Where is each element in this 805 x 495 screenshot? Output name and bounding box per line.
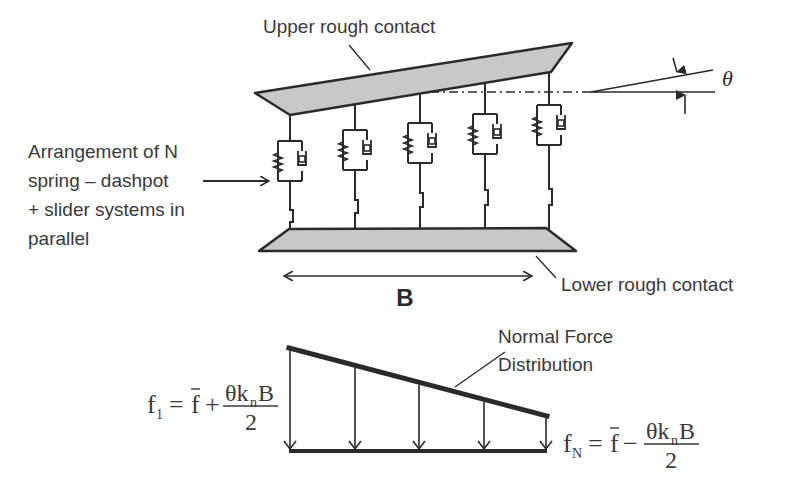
svg-text:θk: θk	[225, 380, 249, 406]
lower-contact-leader	[536, 256, 556, 278]
spring-dashpot-slider-4	[469, 84, 501, 229]
equation-f1: f 1 = f + θk n B 2	[147, 380, 278, 435]
svg-text:+: +	[205, 390, 220, 419]
upper-contact-label: Upper rough contact	[263, 16, 436, 37]
contact-model-diagram: Upper rough contact θ	[0, 0, 805, 495]
svg-text:−: −	[623, 429, 638, 458]
svg-text:f: f	[563, 429, 572, 458]
arrangement-line-1: Arrangement of N	[28, 141, 178, 162]
lower-contact-label: Lower rough contact	[561, 274, 734, 295]
svg-text:n: n	[250, 395, 257, 410]
svg-text:1: 1	[156, 407, 163, 422]
width-label: B	[396, 284, 413, 311]
svg-text:=: =	[588, 429, 603, 458]
svg-text:2: 2	[245, 409, 257, 435]
svg-text:N: N	[572, 446, 582, 461]
spring-dashpot-slider-5	[533, 72, 565, 229]
slider-icon	[420, 163, 423, 229]
svg-text:=: =	[169, 390, 184, 419]
angle-arrow-down-icon	[673, 58, 677, 72]
arrangement-line-2: spring – dashpot	[28, 170, 169, 191]
svg-text:2: 2	[665, 447, 677, 473]
svg-text:f: f	[191, 390, 200, 419]
angle-indicator	[591, 58, 715, 114]
slider-icon	[549, 145, 552, 229]
arrangement-label: Arrangement of N spring – dashpot + slid…	[28, 141, 185, 249]
upper-rough-contact	[255, 43, 572, 115]
spring-dashpot-slider-2	[339, 105, 371, 229]
lower-rough-contact	[259, 228, 576, 251]
equation-fN: f N = f − θk n B 2	[563, 418, 699, 473]
slider-icon	[485, 154, 488, 229]
arrangement-line-4: parallel	[28, 228, 89, 249]
theta-label: θ	[722, 66, 733, 91]
svg-text:n: n	[671, 433, 678, 448]
svg-text:θk: θk	[646, 418, 670, 444]
slider-icon	[355, 170, 358, 229]
spring-dashpot-slider-1	[274, 115, 306, 229]
svg-text:B: B	[679, 418, 695, 444]
svg-text:f: f	[610, 429, 619, 458]
spring-dashpot-slider-3	[404, 95, 436, 229]
slider-icon	[290, 181, 293, 229]
force-distribution-label-1: Normal Force	[498, 326, 613, 347]
arrangement-line-3: + slider systems in	[28, 199, 185, 220]
force-distribution-label-2: Distribution	[498, 354, 593, 375]
upper-contact-leader	[349, 45, 370, 70]
svg-text:B: B	[258, 380, 274, 406]
svg-text:f: f	[147, 390, 156, 419]
